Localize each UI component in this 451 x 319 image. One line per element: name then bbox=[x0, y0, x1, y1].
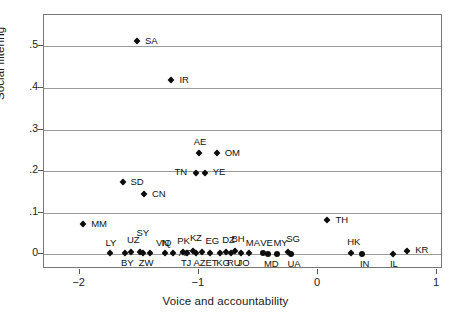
data-point-label-tj: TJ bbox=[181, 258, 191, 268]
x-tick-label-1: 1 bbox=[421, 276, 451, 288]
data-point-ir bbox=[168, 76, 175, 83]
data-point-label-kz: KZ bbox=[190, 233, 202, 243]
data-point-jo bbox=[237, 250, 244, 257]
data-point-in bbox=[359, 251, 365, 257]
data-point-label-zw: ZW bbox=[139, 258, 154, 268]
data-point-il bbox=[389, 250, 396, 257]
data-point-ae bbox=[195, 150, 202, 157]
data-point-sa bbox=[133, 37, 140, 44]
data-point-th bbox=[324, 216, 331, 223]
gridline-y-.2 bbox=[44, 171, 441, 172]
data-point-label-sd: SD bbox=[131, 177, 144, 187]
data-point-label-ir: IR bbox=[179, 75, 188, 85]
data-point-label-il: IL bbox=[390, 259, 398, 269]
data-point-label-tn: TN bbox=[174, 167, 186, 177]
y-tick-label-.3: .3 bbox=[20, 122, 38, 134]
data-point-label-ma: MA bbox=[246, 238, 260, 248]
data-point-label-sa: SA bbox=[145, 36, 157, 46]
data-point-label-ve: VE bbox=[260, 238, 272, 248]
data-point-cn bbox=[141, 191, 148, 198]
gridline-y-.5 bbox=[44, 46, 441, 47]
data-point-af bbox=[169, 250, 176, 257]
y-tick-label-.4: .4 bbox=[20, 80, 38, 92]
data-point-label-mm: MM bbox=[91, 219, 107, 229]
data-point-label-ua: UA bbox=[288, 259, 301, 269]
data-point-label-az: AZ bbox=[193, 258, 205, 268]
data-point-label-eg: EG bbox=[205, 236, 219, 246]
gridline-y-.3 bbox=[44, 130, 441, 131]
data-point-et bbox=[206, 250, 213, 257]
data-point-label-sy: SY bbox=[136, 228, 148, 238]
y-tick-label-.5: .5 bbox=[20, 38, 38, 50]
data-point-mm bbox=[80, 220, 87, 227]
data-point-label-ae: AE bbox=[194, 137, 206, 147]
data-point-label-hk: HK bbox=[347, 237, 360, 247]
data-point-label-pk: PK bbox=[177, 236, 189, 246]
data-point-vn bbox=[146, 250, 153, 257]
x-tick-label--2: −2 bbox=[64, 276, 94, 288]
y-axis-label: Social filtering bbox=[0, 0, 6, 100]
data-point-om bbox=[213, 150, 220, 157]
data-point-label-om: OM bbox=[225, 148, 240, 158]
data-point-label-kr: KR bbox=[415, 245, 428, 255]
data-point-ua bbox=[288, 251, 294, 257]
y-tick-label-.1: .1 bbox=[20, 205, 38, 217]
data-point-hk bbox=[348, 250, 355, 257]
data-point-label-iq: IQ bbox=[161, 238, 171, 248]
data-point-md bbox=[265, 251, 271, 257]
x-tick-label-0: 0 bbox=[302, 276, 332, 288]
data-point-label-sg: SG bbox=[286, 234, 300, 244]
x-tick-mark--1 bbox=[198, 269, 199, 274]
scatter-plot-figure: Social filtering 0.1.2.3.4.5 SAIRAEOMTNY… bbox=[0, 0, 451, 319]
data-point-ly bbox=[106, 250, 113, 257]
plot-area: SAIRAEOMTNYESDCNTHMMLYBYUZSYZWVNIQAFPKTJ… bbox=[43, 14, 442, 268]
data-point-label-bh: BH bbox=[232, 234, 245, 244]
x-tick-label--1: −1 bbox=[183, 276, 213, 288]
data-point-label-by: BY bbox=[121, 258, 133, 268]
data-point-iq bbox=[162, 250, 169, 257]
y-tick-label-0: 0 bbox=[20, 246, 38, 258]
data-point-ma bbox=[245, 250, 252, 257]
data-point-label-ly: LY bbox=[106, 238, 117, 248]
y-tick-label-.2: .2 bbox=[20, 163, 38, 175]
data-point-zw bbox=[139, 250, 146, 257]
gridline-y-.4 bbox=[44, 88, 441, 89]
x-tick-mark-0 bbox=[317, 269, 318, 274]
data-point-sd bbox=[119, 178, 126, 185]
data-point-label-jo: JO bbox=[238, 258, 250, 268]
data-point-label-cn: CN bbox=[152, 189, 166, 199]
data-point-label-md: MD bbox=[264, 259, 279, 269]
data-point-label-in: IN bbox=[360, 259, 369, 269]
x-tick-mark--2 bbox=[79, 269, 80, 274]
data-point-label-ye: YE bbox=[213, 167, 225, 177]
x-tick-mark-1 bbox=[436, 269, 437, 274]
data-point-my bbox=[274, 251, 280, 257]
gridline-y-.1 bbox=[44, 213, 441, 214]
x-axis-label: Voice and accountability bbox=[0, 295, 451, 307]
data-point-label-th: TH bbox=[335, 215, 347, 225]
